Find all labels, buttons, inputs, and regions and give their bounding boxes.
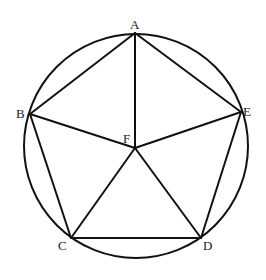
pentagon-diagram: A B E F C D: [0, 0, 266, 280]
segment-FD: [135, 148, 201, 238]
label-B: B: [16, 106, 25, 121]
segment-FC: [71, 148, 135, 238]
segment-FB: [30, 114, 135, 148]
label-F: F: [123, 131, 130, 146]
segment-FE: [135, 112, 241, 148]
label-C: C: [58, 238, 67, 253]
label-D: D: [203, 238, 212, 253]
label-A: A: [130, 17, 140, 32]
segment-EA: [135, 33, 241, 112]
label-E: E: [243, 104, 251, 119]
segment-AB: [30, 33, 135, 114]
